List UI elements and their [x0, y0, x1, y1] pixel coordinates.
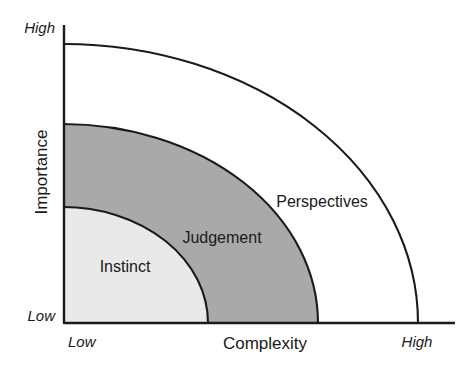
y-axis-low-label: Low	[27, 307, 56, 324]
x-axis-high-label: High	[402, 333, 433, 350]
y-axis-high-label: High	[24, 19, 55, 36]
concentric-band-diagram: High Low Low High Importance Complexity …	[0, 0, 473, 371]
region-label-judgement: Judgement	[182, 229, 262, 246]
x-axis-title-complexity: Complexity	[223, 334, 308, 353]
region-label-instinct: Instinct	[100, 258, 151, 275]
diagram-canvas: High Low Low High Importance Complexity …	[0, 0, 473, 371]
x-axis-low-label: Low	[68, 333, 97, 350]
y-axis-title-importance: Importance	[32, 129, 51, 214]
region-label-perspectives: Perspectives	[276, 193, 368, 210]
